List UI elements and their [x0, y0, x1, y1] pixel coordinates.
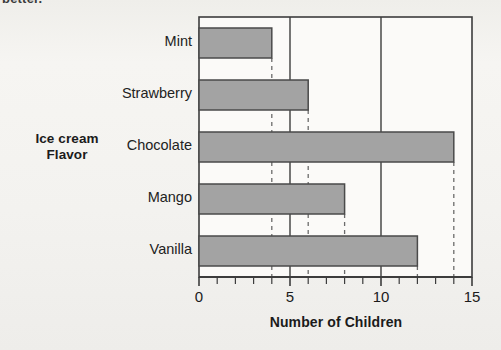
bar-chocolate — [199, 132, 454, 162]
category-label-strawberry: Strawberry — [60, 85, 192, 101]
y-axis-title: Ice cream Flavor — [8, 131, 126, 163]
x-tick-label-10: 10 — [373, 288, 390, 305]
x-tick-label-0: 0 — [195, 288, 203, 305]
bar-strawberry — [199, 80, 308, 110]
y-axis-title-line1: Ice cream — [35, 131, 98, 146]
bar-mint — [199, 28, 272, 58]
x-tick-label-5: 5 — [286, 288, 294, 305]
bar-vanilla — [199, 236, 417, 266]
category-label-vanilla: Vanilla — [60, 241, 192, 257]
category-label-mint: Mint — [60, 33, 192, 49]
x-axis-title: Number of Children — [199, 314, 473, 330]
bar-mango — [199, 184, 345, 214]
x-tick-label-15: 15 — [464, 288, 481, 305]
category-axis-labels: MintStrawberryChocolateMangoVanilla — [60, 0, 192, 350]
y-axis-title-line2: Flavor — [46, 147, 87, 162]
category-label-mango: Mango — [60, 189, 192, 205]
